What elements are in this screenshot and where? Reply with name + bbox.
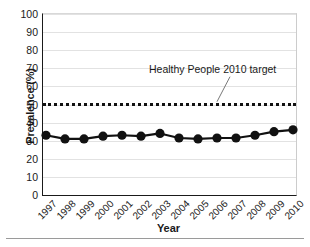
y-tick-label: 40 [26, 117, 38, 129]
data-point [288, 125, 297, 134]
x-tick-label: 2008 [244, 198, 268, 222]
data-point [117, 131, 126, 140]
y-tick-label: 60 [26, 80, 38, 92]
y-tick-label: 70 [26, 62, 38, 74]
x-tick-label: 1997 [35, 198, 59, 222]
data-point [60, 134, 69, 143]
y-tick-label: 30 [26, 135, 38, 147]
y-tick-label: 0 [32, 189, 38, 201]
x-tick-label: 2004 [168, 198, 192, 222]
footer-divider [6, 238, 304, 239]
x-tick-label: 2010 [282, 198, 306, 222]
series-markers [41, 125, 297, 143]
chart-figure: Prevalence (%) 0102030405060708090100 He… [0, 0, 310, 247]
y-tick-label: 80 [26, 44, 38, 56]
data-point [250, 131, 259, 140]
data-point [193, 134, 202, 143]
x-tick-label: 2002 [130, 198, 154, 222]
gridline [43, 195, 296, 196]
y-tick-label: 10 [26, 171, 38, 183]
x-tick-label: 2007 [225, 198, 249, 222]
x-tick-label: 2009 [263, 198, 287, 222]
data-point [79, 134, 88, 143]
y-tick-label: 100 [20, 8, 38, 20]
y-tick-label: 50 [26, 99, 38, 111]
data-point [136, 132, 145, 141]
x-tick-label: 2001 [111, 198, 135, 222]
data-point [269, 127, 278, 136]
data-point [212, 133, 221, 142]
x-tick-label: 2000 [92, 198, 116, 222]
data-series [43, 14, 296, 195]
x-tick-label: 1998 [54, 198, 78, 222]
data-point [98, 132, 107, 141]
data-point [155, 129, 164, 138]
x-tick-label: 2003 [149, 198, 173, 222]
plot-area: 0102030405060708090100 Healthy People 20… [42, 13, 297, 196]
y-tick-label: 90 [26, 26, 38, 38]
x-axis-title: Year [42, 222, 295, 234]
x-tick-label: 1999 [73, 198, 97, 222]
data-point [231, 133, 240, 142]
x-tick-label: 2005 [187, 198, 211, 222]
data-point [41, 131, 50, 140]
data-point [174, 133, 183, 142]
y-tick-label: 20 [26, 153, 38, 165]
x-tick-label: 2006 [206, 198, 230, 222]
